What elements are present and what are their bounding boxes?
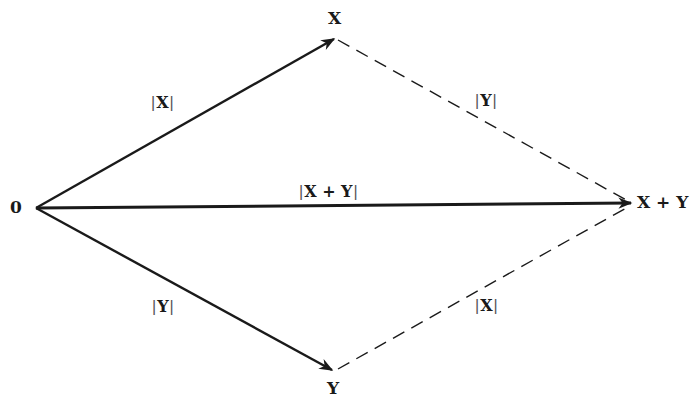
magnitude-label-y-upper: |Y| — [474, 93, 498, 109]
vector-arrow-sum — [36, 203, 631, 208]
dashed-edge-x-to-sum — [338, 40, 628, 201]
magnitude-label-sum: |X + Y| — [298, 184, 359, 200]
magnitude-label-x-upper: |X| — [150, 95, 175, 111]
magnitude-label-y-lower: |Y| — [151, 299, 175, 315]
dashed-edge-y-to-sum — [338, 207, 628, 369]
magnitude-label-x-lower: |X| — [474, 298, 499, 314]
origin-label: 0 — [10, 199, 22, 216]
vector-arrow-y — [36, 208, 332, 370]
point-y-label: Y — [327, 380, 339, 397]
vector-arrow-x — [36, 39, 334, 208]
diagram-canvas — [0, 0, 697, 407]
point-sum-label: X + Y — [637, 194, 688, 211]
point-x-label: X — [328, 10, 341, 27]
